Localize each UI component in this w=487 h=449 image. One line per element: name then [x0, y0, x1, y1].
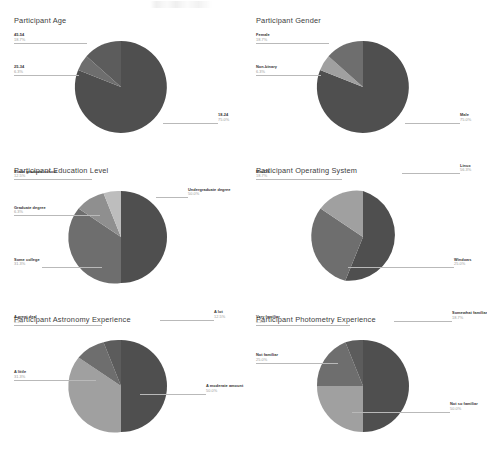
pie-label-male: Male 75.0%: [460, 113, 471, 122]
pie-label-not-familiar: Not familiar 25.0%: [256, 353, 278, 362]
leader-line-not-so-familiar: [352, 412, 450, 413]
leader-line-undergraduate-degree: [156, 197, 188, 198]
chart-panel-participant-operating-system: Participant Operating System MacOS 18.7%…: [242, 150, 484, 300]
leader-line-a-little: [14, 380, 96, 381]
pie-label-a-lot: A lot 12.5%: [214, 310, 225, 319]
pie-label-graduate-degree: Graduate degree 6.3%: [14, 206, 46, 215]
pie-participant-gender: [242, 0, 484, 150]
chart-panel-participant-education-level: Participant Education Level Some graduat…: [0, 150, 242, 300]
pie-label-18-24: 18-24 75.0%: [218, 113, 229, 122]
leader-line-non-binary: [256, 75, 321, 76]
leader-line-linux: [402, 173, 460, 174]
pie-label-female: Female 18.7%: [256, 33, 270, 42]
pie-label-a-great-deal: A great deal 6.3%: [14, 315, 37, 324]
pie-participant-age: [0, 0, 242, 150]
pie-label-45-54: 45-54 18.7%: [14, 33, 25, 42]
pie-label-windows: Windows 25.0%: [454, 258, 471, 267]
leader-line-windows: [348, 267, 454, 268]
leader-line-graduate-degree: [14, 215, 100, 216]
leader-line-a-moderate-amount: [140, 394, 206, 395]
leader-line-female: [256, 43, 329, 44]
pie-slice-undergraduate-degree: [121, 191, 167, 283]
chart-panel-participant-photometry-experience: Participant Photometry Experience Very f…: [242, 299, 484, 449]
pie-slice-not-familiar: [317, 386, 363, 432]
leader-line-some-graduate-school: [14, 179, 92, 180]
chart-panel-participant-astronomy-experience: Participant Astronomy Experience A great…: [0, 299, 242, 449]
pie-label-a-moderate-amount: A moderate amount 50.0%: [206, 384, 243, 393]
leader-line-45-54: [14, 43, 87, 44]
pie-slice-not-so-familiar: [363, 340, 409, 432]
leader-line-a-lot: [160, 320, 214, 321]
leader-line-macos: [256, 179, 342, 180]
chart-panel-participant-age: Participant Age 45-54 18.7% 25-34 6.3% 1…: [0, 0, 242, 150]
leader-line-not-familiar: [256, 363, 338, 364]
pie-label-not-so-familiar: Not so familiar 50.0%: [450, 402, 478, 411]
leader-line-male: [405, 123, 460, 124]
pie-label-somewhat-familiar: Somewhat familiar 18.7%: [452, 311, 487, 320]
pie-label-some-graduate-school: Some graduate school 12.5%: [14, 170, 57, 179]
pie-label-a-little: A little 31.3%: [14, 370, 26, 379]
pie-label-linux: Linux 56.3%: [460, 164, 471, 173]
pie-label-some-college: Some college 31.3%: [14, 258, 40, 267]
pie-label-25-34: 25-34 6.3%: [14, 65, 24, 74]
leader-line-18-24: [163, 123, 218, 124]
leader-line-somewhat-familiar: [394, 321, 452, 322]
chart-panel-participant-gender: Participant Gender Female 18.7% Non-bina…: [242, 0, 484, 150]
pie-label-macos: MacOS 18.7%: [256, 170, 269, 179]
pie-svg-os: [242, 150, 484, 300]
pie-slice-a-moderate-amount: [121, 340, 167, 432]
leader-line-25-34: [14, 75, 79, 76]
pie-label-non-binary: Non-binary 6.3%: [256, 65, 277, 74]
leader-line-very-familiar: [256, 325, 350, 326]
pie-participant-operating-system: [242, 150, 484, 300]
leader-line-a-great-deal: [14, 325, 102, 326]
pie-label-undergraduate-degree: Undergraduate degree 50.0%: [188, 188, 231, 197]
leader-line-some-college: [42, 267, 102, 268]
pie-label-very-familiar: Very familiar 6.3%: [256, 315, 280, 324]
